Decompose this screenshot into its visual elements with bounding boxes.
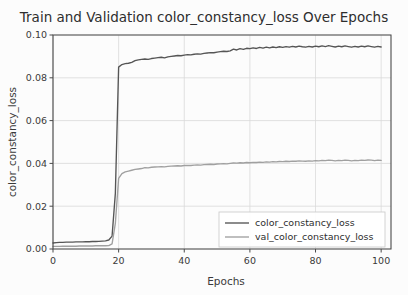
x-tick-label: 60 — [244, 255, 256, 266]
chart-figure: Train and Validation color_constancy_los… — [0, 0, 408, 295]
x-tick-label: 80 — [309, 255, 321, 266]
x-axis-label: Epochs — [207, 275, 245, 287]
chart-legend[interactable]: color_constancy_lossval_color_constancy_… — [219, 212, 385, 247]
y-tick-label: 0.10 — [26, 29, 47, 40]
line-chart: Train and Validation color_constancy_los… — [0, 0, 408, 295]
x-tick-label: 40 — [178, 255, 190, 266]
x-tick-label: 0 — [50, 255, 56, 266]
figure-background — [0, 0, 408, 295]
chart-title: Train and Validation color_constancy_los… — [19, 9, 388, 25]
y-tick-label: 0.02 — [26, 201, 47, 212]
y-axis-label: color_constancy_loss — [6, 87, 19, 197]
y-tick-label: 0.04 — [26, 158, 47, 169]
legend-label-train: color_constancy_loss — [255, 217, 355, 228]
y-tick-label: 0.06 — [26, 115, 47, 126]
legend-label-validation: val_color_constancy_loss — [255, 231, 374, 242]
y-tick-label: 0.08 — [26, 72, 47, 83]
y-tick-label: 0.00 — [26, 243, 47, 254]
x-tick-label: 20 — [113, 255, 125, 266]
x-tick-label: 100 — [372, 255, 390, 266]
